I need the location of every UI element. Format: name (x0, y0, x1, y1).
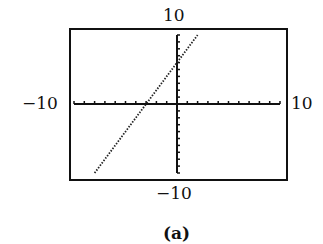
xmax-label: 10 (291, 95, 313, 112)
ymin-label: −10 (156, 185, 192, 202)
calculator-graph (0, 0, 323, 244)
figure-caption: (a) (163, 223, 190, 243)
xmin-label: −10 (22, 95, 58, 112)
ymax-label: 10 (163, 7, 185, 24)
